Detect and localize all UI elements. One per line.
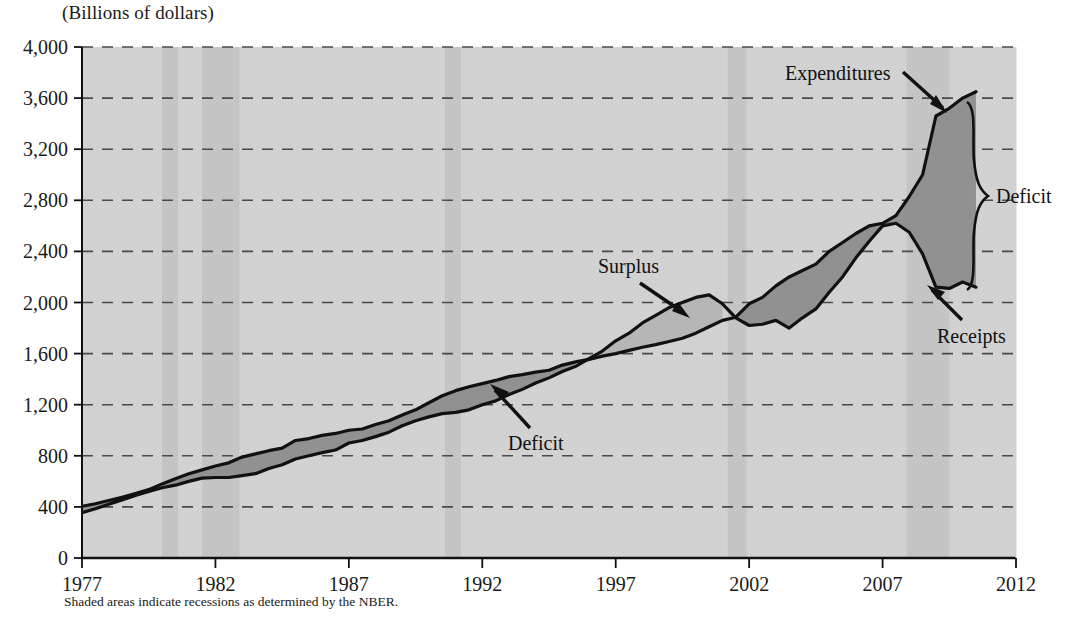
y-axis-ticks: 04008001,2001,6002,0002,4002,8003,2003,6… xyxy=(23,36,82,569)
annotation-receipts-label: Receipts xyxy=(937,325,1006,348)
annotation-deficit-mid-label: Deficit xyxy=(508,432,564,454)
x-tick-label-2007: 2007 xyxy=(863,573,903,595)
y-tick-label-1,200: 1,200 xyxy=(23,394,68,416)
y-tick-label-800: 800 xyxy=(38,445,68,467)
annotation-deficit-right-label: Deficit xyxy=(996,185,1052,207)
chart-footnote: Shaded areas indicate recessions as dete… xyxy=(64,594,398,610)
annotation-expenditures-label: Expenditures xyxy=(785,62,891,85)
x-tick-label-1987: 1987 xyxy=(329,573,369,595)
chart-page: (Billions of dollars) xyxy=(0,0,1066,629)
y-tick-label-2,400: 2,400 xyxy=(23,240,68,262)
x-tick-label-1982: 1982 xyxy=(195,573,235,595)
y-tick-label-3,200: 3,200 xyxy=(23,138,68,160)
y-tick-label-2,000: 2,000 xyxy=(23,292,68,314)
y-tick-label-0: 0 xyxy=(58,547,68,569)
y-tick-label-3,600: 3,600 xyxy=(23,87,68,109)
x-tick-label-1977: 1977 xyxy=(62,573,102,595)
x-tick-label-2012: 2012 xyxy=(996,573,1036,595)
y-tick-label-4,000: 4,000 xyxy=(23,36,68,58)
x-axis-ticks: 19771982198719921997200220072012 xyxy=(62,558,1036,595)
x-tick-label-1992: 1992 xyxy=(462,573,502,595)
x-tick-label-2002: 2002 xyxy=(729,573,769,595)
annotation-surplus-label: Surplus xyxy=(598,255,659,278)
x-tick-label-1997: 1997 xyxy=(596,573,636,595)
y-tick-label-400: 400 xyxy=(38,496,68,518)
federal-budget-chart: 04008001,2001,6002,0002,4002,8003,2003,6… xyxy=(0,0,1066,629)
y-tick-label-2,800: 2,800 xyxy=(23,189,68,211)
y-tick-label-1,600: 1,600 xyxy=(23,343,68,365)
